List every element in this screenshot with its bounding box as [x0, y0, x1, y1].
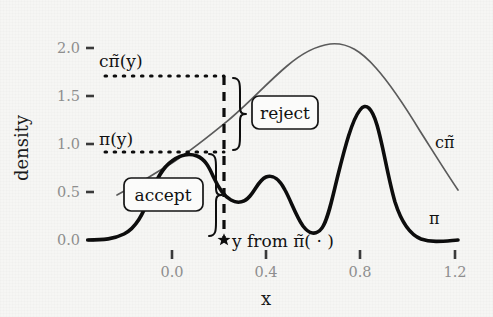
y-axis-title: density	[11, 114, 32, 181]
x-tick-label-0_4: 0.4	[254, 264, 277, 280]
target-curve-label: π	[429, 209, 440, 228]
accept-label: accept	[135, 185, 192, 205]
envelope-level-label: cπ̃(y)	[99, 51, 143, 71]
y-tick-label-0: 0.0	[57, 232, 80, 248]
sample-point-group: y from π̃( · )	[217, 231, 333, 251]
x-tick-label-1_2: 1.2	[443, 264, 466, 280]
reject-label: reject	[260, 103, 310, 123]
y-tick-label-2: 2.0	[57, 40, 80, 56]
accept-brace	[209, 154, 222, 236]
x-tick-label-0: 0.0	[160, 264, 183, 280]
target-level-label: π(y)	[99, 129, 133, 149]
reject-annotation-group: reject	[233, 78, 318, 150]
x-tick-label-0_8: 0.8	[348, 264, 371, 280]
rejection-sampling-plot: density 2.0 1.5 1.0 0.5 0.0 0.0 0.4 0.8 …	[0, 0, 493, 317]
sample-point-label: y from π̃( · )	[231, 231, 334, 251]
x-axis: 0.0 0.4 0.8 1.2 x	[160, 250, 466, 309]
chart-canvas: density 2.0 1.5 1.0 0.5 0.0 0.0 0.4 0.8 …	[0, 0, 493, 317]
star-icon	[217, 233, 230, 245]
y-axis: density 2.0 1.5 1.0 0.5 0.0	[11, 40, 94, 248]
y-tick-label-0_5: 0.5	[57, 184, 80, 200]
y-tick-label-1: 1.0	[57, 136, 80, 152]
x-axis-title: x	[261, 288, 271, 309]
y-tick-label-1_5: 1.5	[57, 88, 80, 104]
envelope-curve-label: cπ̃	[435, 133, 454, 152]
